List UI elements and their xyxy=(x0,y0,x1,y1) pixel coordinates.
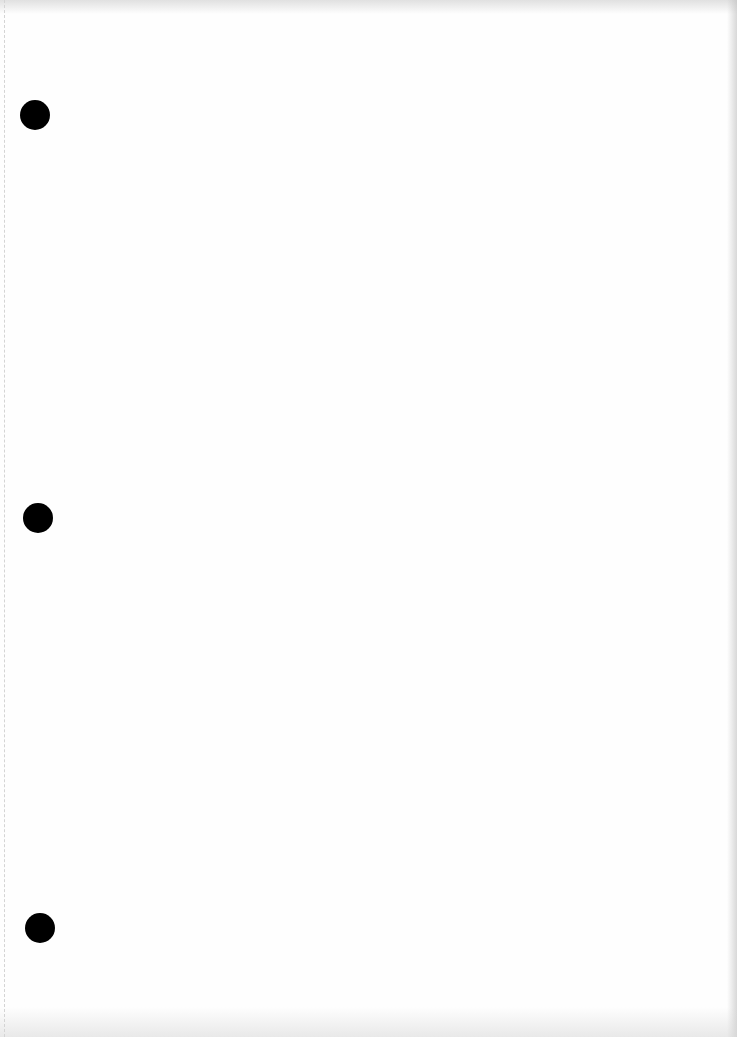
scan-edge-shadow-right xyxy=(727,0,737,1037)
scan-edge-shadow-bottom xyxy=(0,1007,737,1037)
blank-paper-page xyxy=(0,0,737,1037)
binder-hole-middle xyxy=(23,503,53,533)
left-margin-line xyxy=(4,0,5,1037)
binder-hole-top xyxy=(20,100,50,130)
binder-hole-bottom xyxy=(25,913,55,943)
scan-edge-shadow-top xyxy=(0,0,737,14)
